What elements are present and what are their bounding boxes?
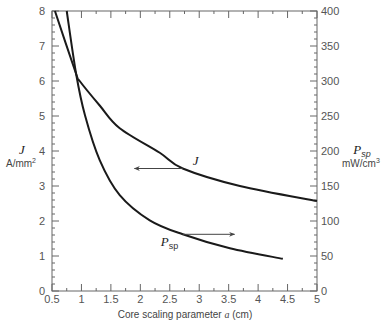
right-axis-title-unit: mW/cm3 [342, 157, 380, 169]
dual-axis-line-chart: 0.511.522.533.544.5501234567805010015020… [0, 0, 389, 328]
right-tick-label: 400 [321, 5, 339, 17]
left-axis-title-var: J [19, 142, 26, 157]
right-axis-unit-sup: 3 [376, 157, 380, 164]
psp-curve [67, 11, 283, 259]
left-tick-label: 4 [39, 145, 45, 157]
x-tick-label: 1.5 [103, 293, 118, 305]
right-tick-label: 350 [321, 40, 339, 52]
left-tick-label: 6 [39, 75, 45, 87]
left-axis-title-unit: A/mm2 [6, 157, 36, 169]
plot-axes [52, 11, 317, 291]
left-tick-label: 5 [39, 110, 45, 122]
right-tick-label: 300 [321, 75, 339, 87]
left-tick-label: 2 [39, 215, 45, 227]
right-tick-label: 50 [321, 250, 333, 262]
left-tick-label: 3 [39, 180, 45, 192]
right-tick-label: 250 [321, 110, 339, 122]
j-curve [55, 11, 317, 201]
right-tick-label: 150 [321, 180, 339, 192]
data-curves [55, 11, 317, 259]
x-tick-label: 4 [255, 293, 261, 305]
x-tick-label: 2.5 [162, 293, 177, 305]
x-tick-label: 4.5 [280, 293, 295, 305]
right-axis-title-var: Psp [352, 142, 370, 159]
x-tick-label: 1 [78, 293, 84, 305]
psp-curve-label: Psp [160, 234, 178, 251]
j-curve-label: J [193, 153, 200, 168]
left-axis-unit-sup: 2 [32, 157, 36, 164]
x-tick-label: 3 [196, 293, 202, 305]
left-tick-label: 1 [39, 250, 45, 262]
left-tick-label: 8 [39, 5, 45, 17]
curve-annotations: JPsp [134, 153, 234, 252]
left-axis-unit: A/mm [6, 158, 32, 169]
right-axis-unit: mW/cm [342, 158, 376, 169]
x-tick-label: 2 [137, 293, 143, 305]
right-tick-label: 0 [321, 285, 327, 297]
plot-frame [52, 11, 317, 291]
x-tick-label: 5 [314, 293, 320, 305]
x-tick-label: 3.5 [221, 293, 236, 305]
left-tick-label: 0 [39, 285, 45, 297]
axis-ticks: 0.511.522.533.544.5501234567805010015020… [39, 5, 339, 305]
x-axis-title: Core scaling parameter a (cm) [118, 309, 253, 320]
left-tick-label: 7 [39, 40, 45, 52]
x-tick-label: 0.5 [44, 293, 59, 305]
right-tick-label: 100 [321, 215, 339, 227]
right-tick-label: 200 [321, 145, 339, 157]
